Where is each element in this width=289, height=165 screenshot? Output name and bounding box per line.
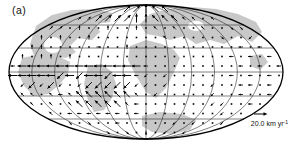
figure-panel: 20.0 km yr-1 (a) <box>0 0 289 165</box>
shaded-regions <box>18 7 268 134</box>
scale-value: 20.0 km yr <box>251 120 284 128</box>
mollweide-map: 20.0 km yr-1 <box>0 0 289 165</box>
landmass-south-america <box>84 64 116 112</box>
scale-exponent: -1 <box>284 119 289 125</box>
scale-bar: 20.0 km yr-1 <box>251 112 288 128</box>
landmass-africa <box>128 40 180 98</box>
shaded-region-south-center <box>142 112 196 134</box>
landmass-west-mid <box>18 54 70 96</box>
scale-arrow-head <box>264 112 268 116</box>
map-layers <box>8 4 283 139</box>
graticule <box>9 5 283 139</box>
panel-label: (a) <box>12 4 26 16</box>
scale-label: 20.0 km yr-1 <box>251 119 288 129</box>
